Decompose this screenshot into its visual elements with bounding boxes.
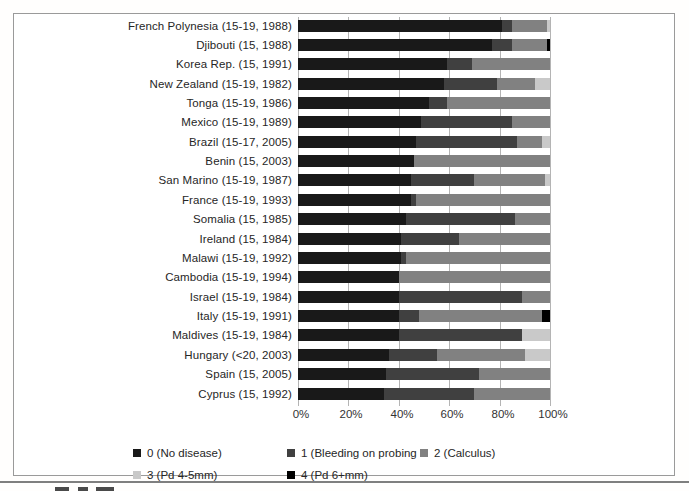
bar-segment-score-3 [547,20,550,32]
bar-segment-score-2 [474,174,545,186]
bar-segment-score-0 [298,310,399,322]
x-tick-label: 100% [529,408,577,420]
bar-row [298,291,550,303]
legend-item-score-2: 2 (Calculus) [420,447,495,459]
bar-row [298,310,550,322]
bar-segment-score-2 [497,78,535,90]
legend-item-score-3: 3 (Pd 4-5mm) [133,469,217,481]
bar-segment-score-3 [522,329,550,341]
category-label: Mexico (15-19, 1989) [13,115,292,129]
category-label: Spain (15, 2005) [13,367,292,381]
bar-segment-score-1 [406,213,515,225]
bar-segment-score-0 [298,213,406,225]
bar-segment-score-2 [512,116,550,128]
bar-segment-score-0 [298,233,401,245]
legend-label: 3 (Pd 4-5mm) [147,469,217,481]
bar-row [298,194,550,206]
x-tick-label: 60% [428,408,476,420]
x-tick-label: 40% [378,408,426,420]
bar-row [298,155,550,167]
category-label: Tonga (15-19, 1986) [13,96,292,110]
bar-segment-score-4 [547,39,550,51]
page: French Polynesia (15-19, 1988)Djibouti (… [0,0,689,491]
bar-segment-score-2 [459,233,550,245]
bar-segment-score-4 [542,310,550,322]
bar-segment-score-0 [298,291,399,303]
x-tick-label: 0% [277,408,325,420]
bar-row [298,39,550,51]
bar-segment-score-2 [416,194,550,206]
bar-row [298,368,550,380]
x-tick-label: 80% [479,408,527,420]
bar-segment-score-2 [512,20,547,32]
bar-segment-score-2 [406,252,550,264]
bar-segment-score-0 [298,174,411,186]
bar-row [298,20,550,32]
bar-segment-score-2 [512,39,547,51]
category-label: Brazil (15-17, 2005) [13,135,292,149]
legend-swatch-score-0 [133,449,141,457]
category-label: Italy (15-19, 1991) [13,309,292,323]
bar-segment-score-1 [399,310,419,322]
bar-segment-score-1 [416,136,517,148]
category-label: Ireland (15, 1984) [13,232,292,246]
bar-segment-score-0 [298,252,401,264]
bar-segment-score-1 [399,329,522,341]
cropped-caption-fragment [78,487,88,491]
bar-segment-score-3 [542,136,550,148]
bar-segment-score-0 [298,155,414,167]
bar-segment-score-3 [535,78,550,90]
category-label: Cyprus (15, 1992) [13,387,292,401]
legend-label: 0 (No disease) [147,447,222,459]
bar-segment-score-1 [389,349,437,361]
bar-row [298,78,550,90]
legend-swatch-score-4 [287,471,295,479]
bar-row [298,58,550,70]
category-label: French Polynesia (15-19, 1988) [13,19,292,33]
bar-segment-score-1 [384,388,474,400]
bar-segment-score-2 [517,136,542,148]
bar-segment-score-1 [502,20,512,32]
bar-row [298,116,550,128]
bar-segment-score-2 [515,213,550,225]
bar-segment-score-0 [298,20,502,32]
bar-segment-score-2 [419,310,542,322]
category-label: Israel (15-19, 1984) [13,290,292,304]
category-label: Djibouti (15, 1988) [13,38,292,52]
bar-row [298,136,550,148]
bar-row [298,233,550,245]
bar-segment-score-2 [474,388,550,400]
bar-row [298,97,550,109]
legend-label: 2 (Calculus) [434,447,495,459]
bar-segment-score-2 [522,291,550,303]
category-label: Cambodia (15-19, 1994) [13,270,292,284]
bar-segment-score-0 [298,97,429,109]
gridline [298,17,299,406]
bar-segment-score-0 [298,271,399,283]
category-label: Hungary (<20, 2003) [13,348,292,362]
bar-segment-score-3 [525,349,550,361]
category-label: Maldives (15-19, 1984) [13,328,292,342]
bar-segment-score-0 [298,349,389,361]
x-tick-label: 20% [327,408,375,420]
bar-segment-score-0 [298,368,386,380]
bar-segment-score-1 [492,39,512,51]
bar-segment-score-0 [298,194,411,206]
bar-row [298,329,550,341]
bar-segment-score-2 [447,97,550,109]
bar-segment-score-0 [298,39,492,51]
legend-label: 4 (Pd 6+mm) [301,469,368,481]
bar-segment-score-0 [298,329,399,341]
bar-segment-score-1 [444,78,497,90]
bar-row [298,388,550,400]
bar-row [298,349,550,361]
page-rule-divider [0,481,689,483]
category-label: Korea Rep. (15, 1991) [13,57,292,71]
cropped-caption-fragment [96,487,114,491]
bar-segment-score-2 [437,349,525,361]
bar-segment-score-0 [298,78,444,90]
bar-segment-score-1 [429,97,447,109]
bar-segment-score-2 [472,58,550,70]
gridline [449,17,450,406]
legend-swatch-score-3 [133,471,141,479]
